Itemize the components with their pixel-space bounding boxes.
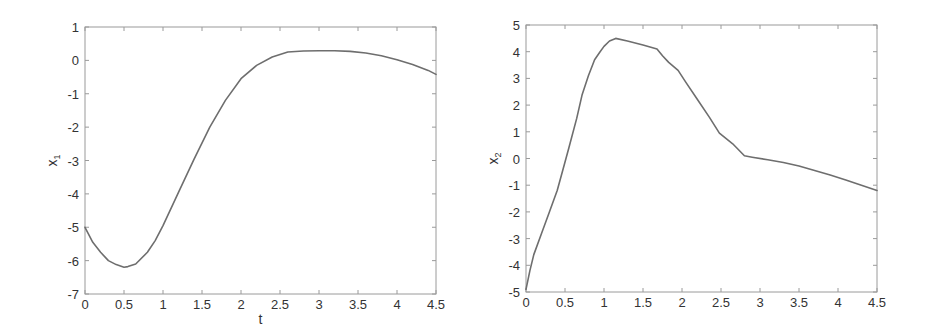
y-tick-label: 0 [513,152,520,167]
x2-vs-t-chart: 00.511.522.533.544.5543210-1-2-3-4-5x2 [485,18,886,310]
series-line-x2 [526,38,877,289]
plot-frame [85,27,436,294]
series-line-x1 [85,51,436,268]
x-tick-label: 1 [600,295,607,310]
plot-frame [526,25,877,292]
x-tick-label: 2.5 [271,297,289,312]
x1-vs-t-chart: 00.511.522.533.544.510-1-2-3-4-5-6-7tx1 [44,20,445,327]
y-tick-label: -3 [67,154,79,169]
x-tick-label: 4 [393,297,400,312]
y-tick-label: -1 [508,178,520,193]
y-tick-label: 1 [513,125,520,140]
x-tick-label: 2 [678,295,685,310]
x-tick-label: 3.5 [790,295,808,310]
y-tick-label: -6 [67,254,79,269]
x-tick-label: 3 [315,297,322,312]
y-tick-label: 4 [513,45,520,60]
y-tick-label: -2 [508,205,520,220]
x-tick-label: 4.5 [427,297,445,312]
x-tick-label: 1.5 [634,295,652,310]
y-tick-label: -4 [67,187,79,202]
x-tick-label: 4.5 [868,295,886,310]
x-tick-label: 0 [522,295,529,310]
y-tick-label: -5 [508,285,520,300]
y-tick-label: -4 [508,258,520,273]
y-axis-label: x2 [485,152,503,164]
figure-canvas: 00.511.522.533.544.510-1-2-3-4-5-6-7tx1 … [0,0,929,334]
y-tick-label: -7 [67,287,79,302]
y-tick-label: -3 [508,232,520,247]
x-tick-label: 1.5 [193,297,211,312]
y-tick-label: 2 [513,98,520,113]
x-tick-label: 2 [237,297,244,312]
y-tick-label: 5 [513,18,520,33]
x-tick-label: 0 [81,297,88,312]
x-tick-label: 3.5 [349,297,367,312]
y-axis-label: x1 [44,154,62,166]
y-tick-label: -2 [67,120,79,135]
y-tick-label: 3 [513,71,520,86]
x-axis-label: t [259,311,263,327]
x-tick-label: 3 [756,295,763,310]
y-tick-label: -1 [67,87,79,102]
x-tick-label: 2.5 [712,295,730,310]
x-tick-label: 0.5 [115,297,133,312]
x-tick-label: 1 [159,297,166,312]
x-tick-label: 4 [834,295,841,310]
y-tick-label: 1 [72,20,79,35]
x-tick-label: 0.5 [556,295,574,310]
y-tick-label: 0 [72,53,79,68]
y-tick-label: -5 [67,220,79,235]
